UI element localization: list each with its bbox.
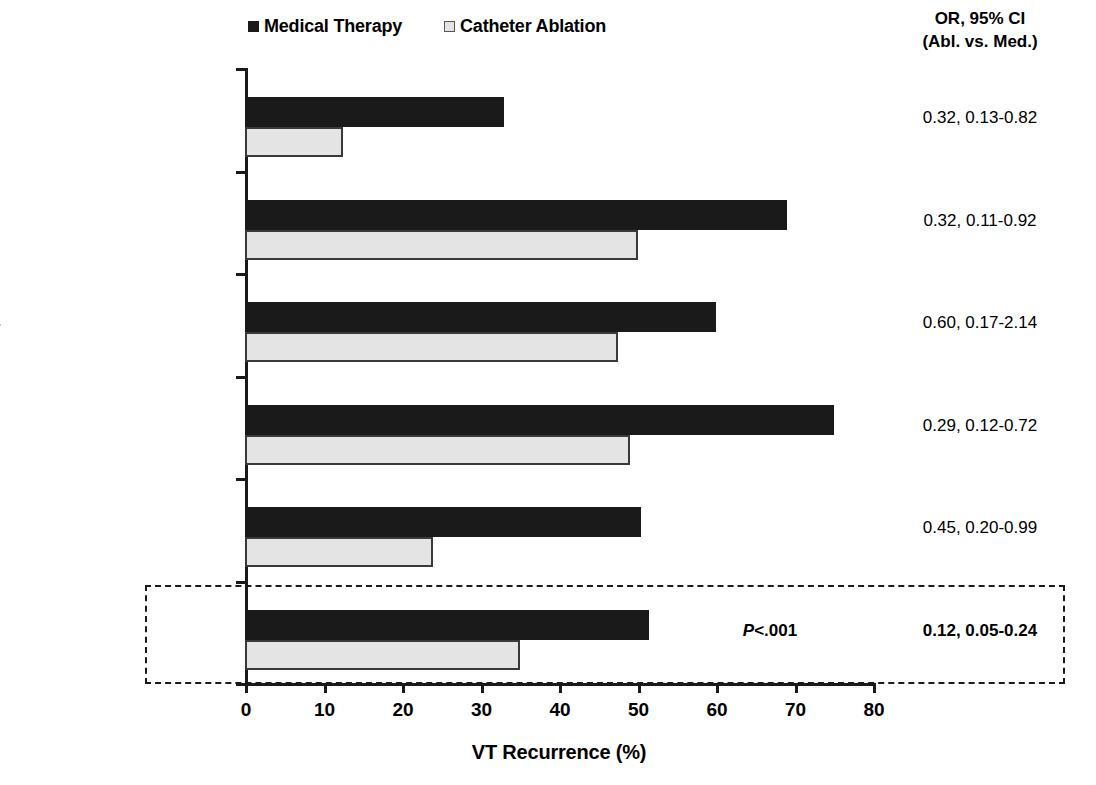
x-axis-tick [795,683,798,693]
bar-medical-therapy [245,610,649,640]
dark-square-icon [248,21,259,32]
x-axis-tick-label: 30 [452,699,512,721]
bar-catheter-ablation [245,127,343,157]
x-axis-tick [873,683,876,693]
or-header-line1: OR, 95% CI [880,8,1080,31]
or-column-header: OR, 95% CI (Abl. vs. Med.) [880,8,1080,54]
y-axis-tick [236,68,246,71]
chart-legend: Medical Therapy Catheter Ablation [248,16,606,37]
x-axis-tick-label: 0 [216,699,276,721]
y-axis-tick [236,581,246,584]
x-axis-tick [559,683,562,693]
legend-label-medical-therapy: Medical Therapy [264,16,402,37]
forest-bar-chart-figure: Medical Therapy Catheter Ablation OR, 95… [0,0,1096,785]
bar-catheter-ablation [245,230,638,260]
x-axis-tick-label: 10 [295,699,355,721]
x-axis-tick [481,683,484,693]
x-axis-tick [245,683,248,693]
or-value: 0.32, 0.11-0.92 [880,211,1080,231]
x-axis-tick-label: 60 [687,699,747,721]
legend-item-catheter-ablation: Catheter Ablation [444,16,606,37]
x-axis-tick-label: 70 [766,699,826,721]
light-square-icon [444,21,455,32]
or-value: 0.60, 0.17-2.14 [880,313,1080,333]
y-axis-tick [236,478,246,481]
bar-catheter-ablation [245,332,618,362]
bar-medical-therapy [245,507,641,537]
legend-item-medical-therapy: Medical Therapy [248,16,402,37]
x-axis-tick-label: 40 [530,699,590,721]
or-value: 0.29, 0.12-0.72 [880,416,1080,436]
bar-catheter-ablation [245,435,630,465]
bar-catheter-ablation [245,640,520,670]
bar-medical-therapy [245,97,504,127]
bar-medical-therapy [245,200,787,230]
bar-medical-therapy [245,405,834,435]
x-axis-tick-label: 80 [844,699,904,721]
bar-medical-therapy [245,302,716,332]
p-value-text: <.001 [754,621,797,640]
or-header-line2: (Abl. vs. Med.) [880,31,1080,54]
y-axis-tick [236,376,246,379]
or-value: 0.32, 0.13-0.82 [880,108,1080,128]
y-axis-tick [236,171,246,174]
p-symbol: P [743,621,754,640]
or-value: 0.45, 0.20-0.99 [880,518,1080,538]
overall-p-value: P<.001 [700,621,840,641]
x-axis-tick [402,683,405,693]
legend-label-catheter-ablation: Catheter Ablation [460,16,606,37]
x-axis-tick-label: 50 [609,699,669,721]
x-axis-title: VT Recurrence (%) [245,741,873,764]
bar-catheter-ablation [245,537,433,567]
x-axis-tick [716,683,719,693]
x-axis-tick [324,683,327,693]
x-axis-tick-label: 20 [373,699,433,721]
or-value: 0.12, 0.05-0.24 [880,621,1080,641]
x-axis-tick [638,683,641,693]
y-axis-tick [236,273,246,276]
